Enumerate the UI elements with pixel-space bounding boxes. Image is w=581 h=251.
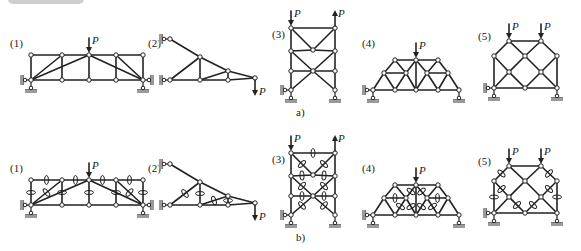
load-label: P (511, 20, 519, 32)
truss-joint (523, 54, 527, 58)
truss-joint (87, 78, 91, 82)
truss-joint (425, 196, 429, 200)
truss-member (509, 56, 525, 72)
truss-member (541, 41, 557, 56)
truss-joint (60, 53, 64, 57)
truss-member (541, 166, 557, 181)
structure-label: (4) (362, 162, 375, 175)
truss-joint (141, 78, 145, 82)
load-label: P (258, 85, 266, 97)
truss-member (313, 175, 335, 176)
structure-label: (3) (272, 153, 285, 166)
truss-member (228, 78, 255, 80)
truss-joint (393, 183, 397, 187)
truss-member (509, 72, 525, 88)
structure-label: (1) (10, 37, 23, 50)
truss-structure-1: (1)P (10, 159, 154, 218)
caption-a: a) (296, 106, 305, 119)
truss-joint (226, 69, 230, 73)
truss-member (291, 28, 313, 50)
header-badge (8, 0, 84, 4)
truss-joint (289, 151, 293, 155)
load-arrow-icon: P (538, 20, 551, 39)
truss-joint (198, 203, 202, 207)
truss-joint (333, 69, 337, 73)
truss-member (170, 164, 200, 182)
truss-structure-2: (2)P (148, 34, 266, 97)
truss-member (313, 51, 335, 71)
truss-joint (507, 195, 511, 199)
load-label: P (543, 145, 551, 157)
pin-support-icon (329, 217, 341, 228)
load-label: P (543, 20, 551, 32)
truss-member (494, 181, 509, 197)
pin-support-icon (488, 90, 500, 101)
pin-support-icon (488, 215, 500, 226)
truss-member (525, 72, 541, 88)
truss-joint (555, 86, 559, 90)
truss-member (313, 176, 335, 196)
truss-member (373, 73, 384, 90)
truss-member (395, 73, 406, 90)
truss-member (427, 73, 438, 90)
truss-joint (289, 194, 293, 198)
truss-structure-5: (5)PP (478, 145, 563, 226)
truss-joint (29, 203, 33, 207)
truss-joint (382, 196, 386, 200)
truss-joint (87, 203, 91, 207)
truss-member (494, 197, 509, 213)
pin-support-icon (367, 92, 379, 103)
truss-joint (523, 86, 527, 90)
truss-joint (141, 178, 145, 182)
truss-member (291, 51, 313, 71)
truss-joint (382, 71, 386, 75)
load-label: P (293, 7, 301, 19)
truss-member (31, 55, 62, 80)
truss-joint (446, 71, 450, 75)
truss-joint (168, 37, 172, 41)
structure-label: (1) (10, 162, 23, 175)
truss-member (494, 72, 509, 88)
truss-joint (333, 88, 337, 92)
load-label: P (293, 132, 301, 144)
truss-member (31, 55, 89, 80)
truss-joint (87, 178, 91, 182)
truss-structure-1: (1)P (10, 34, 154, 93)
truss-member (200, 71, 228, 80)
truss-joint (289, 49, 293, 53)
truss-joint (226, 78, 230, 82)
truss-member (541, 56, 557, 72)
truss-diagram-canvas: (1)P(2)P(3)PP(4)P(5)PP (1)P(2)P(3)PP(4)P… (0, 0, 581, 251)
truss-joint (198, 78, 202, 82)
truss-joint (311, 48, 315, 52)
load-arrow-icon: P (252, 205, 266, 222)
truss-structure-4: (4)P (362, 37, 465, 103)
truss-structure-4: (4)P (362, 162, 465, 228)
truss-structure-3: (3)PP (272, 7, 345, 103)
pin-support-icon (285, 92, 297, 103)
truss-joint (539, 164, 543, 168)
truss-member (494, 41, 509, 56)
truss-member (406, 73, 416, 90)
truss-joint (114, 78, 118, 82)
pin-support-icon (25, 207, 37, 218)
truss-member (416, 198, 427, 215)
pin-support-icon (137, 207, 149, 218)
truss-joint (371, 213, 375, 217)
truss-member (525, 166, 541, 181)
truss-member (116, 55, 143, 80)
truss-joint (289, 213, 293, 217)
pin-support-icon (453, 217, 465, 228)
truss-joint (114, 203, 118, 207)
load-arrow-icon: P (538, 145, 551, 164)
truss-joint (414, 213, 418, 217)
truss-joint (436, 213, 440, 217)
truss-member (291, 196, 313, 215)
load-arrow-icon: P (506, 145, 519, 164)
truss-joint (507, 164, 511, 168)
load-label: P (511, 145, 519, 157)
truss-figure: (1)P(2)P(3)PP(4)P(5)PP (1)P(2)P(3)PP(4)P… (0, 0, 581, 251)
truss-joint (289, 174, 293, 178)
pin-support-icon (137, 82, 149, 93)
truss-joint (226, 194, 230, 198)
